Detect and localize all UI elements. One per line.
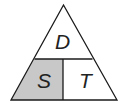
label-s: S [37,70,51,91]
label-d: D [55,31,70,52]
label-t: T [79,70,92,91]
